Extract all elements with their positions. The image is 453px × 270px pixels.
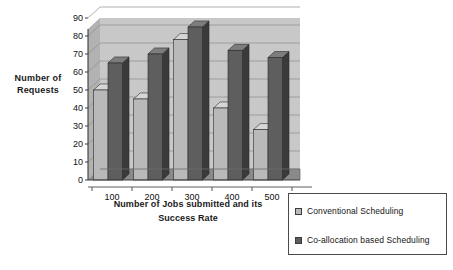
bar-chart: Number of Requests 010203040506070809010… [0,0,453,270]
bar-front-face [254,130,268,180]
bar-front-face [108,63,122,180]
x-axis-title-line-2: Success Rate [72,211,304,225]
bar-side-face [162,48,169,180]
y-axis-tick-label: 60 [73,67,83,77]
legend-item-conventional-scheduling: Conventional Scheduling [295,206,403,216]
y-axis-tick-label: 70 [73,49,83,59]
chart-legend: Conventional Scheduling Co-allocation ba… [288,193,447,255]
bar-side-face [282,52,289,180]
bar-front-face [94,90,108,180]
gridline-depth [88,7,100,18]
bar-front-face [188,27,202,180]
bar-100-series-2 [108,57,129,180]
bar-500-series-2 [268,52,289,180]
y-axis-tick-label: 90 [73,13,83,23]
y-axis-tick-label: 40 [73,103,83,113]
bar-400-series-2 [228,44,249,180]
y-axis-tick-label: 10 [73,157,83,167]
legend-swatch-icon [295,237,302,244]
legend-item-co-allocation-based-scheduling: Co-allocation based Scheduling [295,235,430,245]
bar-side-face [122,57,129,180]
bar-200-series-2 [148,48,169,180]
bar-side-face [242,44,249,180]
x-axis-title-line-1: Number of Jobs submitted and its [72,197,304,211]
x-axis-title: Number of Jobs submitted and its Success… [72,197,304,225]
bar-300-series-2 [188,21,209,180]
bar-front-face [268,58,282,180]
y-axis-tick-label: 0 [78,175,83,185]
y-axis-tick-label: 30 [73,121,83,131]
legend-swatch-icon [295,208,302,215]
bar-front-face [174,40,188,180]
legend-item-label: Conventional Scheduling [307,206,403,216]
bar-front-face [148,54,162,180]
bar-front-face [134,99,148,180]
y-axis-tick-label: 80 [73,31,83,41]
bar-front-face [228,50,242,180]
y-axis-tick-label: 50 [73,85,83,95]
legend-item-label: Co-allocation based Scheduling [307,235,430,245]
bar-side-face [202,21,209,180]
y-axis-tick-label: 20 [73,139,83,149]
